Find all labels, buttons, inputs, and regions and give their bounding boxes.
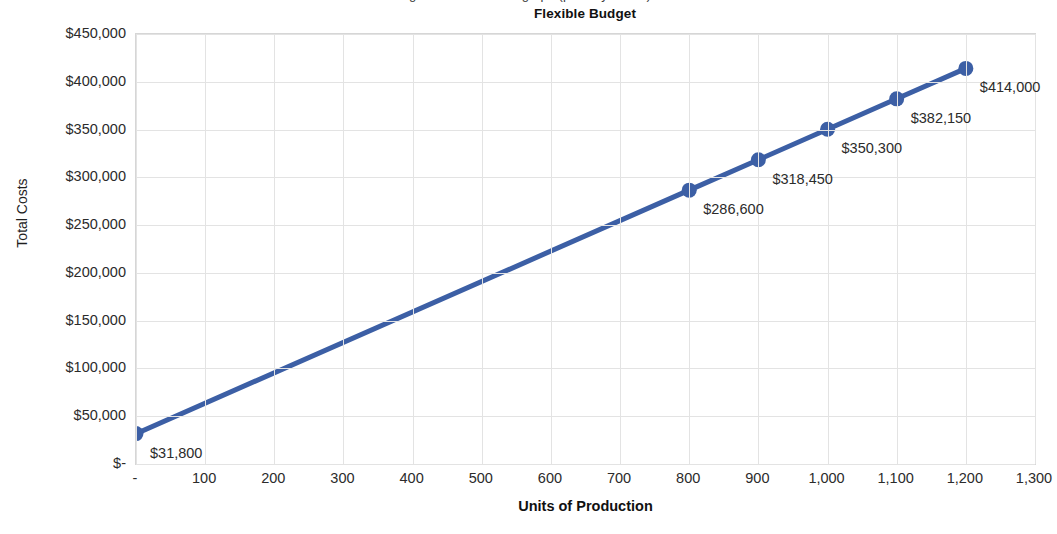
x-axis-title: Units of Production: [135, 498, 1036, 514]
gridline-horizontal: [136, 177, 1035, 178]
y-axis-tick-label: $450,000: [6, 25, 126, 41]
gridline-horizontal: [136, 225, 1035, 226]
gridline-vertical: [689, 34, 690, 464]
gridline-vertical: [1035, 34, 1036, 464]
y-axis-tick-label: $350,000: [6, 121, 126, 137]
gridline-vertical: [482, 34, 483, 464]
data-point-label: $350,300: [842, 140, 902, 156]
y-axis-tick-label: $50,000: [6, 407, 126, 423]
gridline-horizontal: [136, 416, 1035, 417]
data-point-label: $318,450: [772, 171, 832, 187]
gridline-vertical: [828, 34, 829, 464]
gridline-vertical: [274, 34, 275, 464]
gridline-vertical: [343, 34, 344, 464]
data-point-label: $286,600: [703, 201, 763, 217]
plot-area: $31,800$286,600$318,450$350,300$382,150$…: [135, 33, 1036, 465]
gridline-vertical: [966, 34, 967, 464]
gridline-vertical: [136, 34, 137, 464]
gridline-vertical: [620, 34, 621, 464]
data-point-label: $382,150: [911, 110, 971, 126]
gridline-horizontal: [136, 321, 1035, 322]
series-line-total-costs: [136, 34, 1035, 464]
gridline-horizontal: [136, 130, 1035, 131]
y-axis-tick-label: $150,000: [6, 312, 126, 328]
chart-title: Flexible Budget: [135, 6, 1035, 21]
y-axis-tick-label: $300,000: [6, 168, 126, 184]
y-axis-tick-label: $250,000: [6, 216, 126, 232]
gridline-vertical: [897, 34, 898, 464]
gridline-vertical: [758, 34, 759, 464]
data-point-label: $31,800: [150, 445, 202, 461]
y-axis-tick-label: $-: [6, 455, 126, 471]
gridline-horizontal: [136, 368, 1035, 369]
gridline-horizontal: [136, 273, 1035, 274]
gridline-vertical: [551, 34, 552, 464]
gridline-horizontal: [136, 464, 1035, 465]
y-axis-tick-label: $400,000: [6, 73, 126, 89]
y-axis-tick-labels: $450,000$400,000$350,000$300,000$250,000…: [0, 33, 126, 465]
data-point-label: $414,000: [980, 79, 1040, 95]
gridline-vertical: [205, 34, 206, 464]
y-axis-tick-label: $200,000: [6, 264, 126, 280]
gridline-vertical: [413, 34, 414, 464]
x-axis-tick-label: 1,300: [989, 470, 1057, 486]
gridline-horizontal: [136, 82, 1035, 83]
y-axis-tick-label: $100,000: [6, 359, 126, 375]
clipped-top-caption: Figure: total cost line graph (partially…: [0, 0, 1049, 3]
x-axis-tick-labels: -1002003004005006007008009001,0001,1001,…: [135, 470, 1036, 492]
gridline-horizontal: [136, 34, 1035, 35]
